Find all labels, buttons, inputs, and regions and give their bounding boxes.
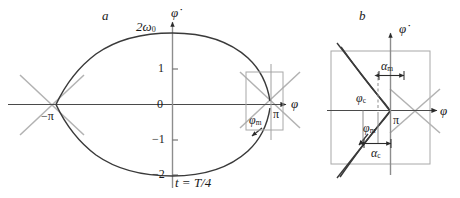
panel-a-label: a xyxy=(102,9,109,22)
panel-a-phi-m-label: φm xyxy=(249,114,261,127)
panel-b-phi-c-value: φ xyxy=(356,91,363,105)
panel-b-phi-m-value: φ xyxy=(363,121,370,135)
panel-b-phi-m-label: φm xyxy=(363,122,375,135)
panel-a-y-ticks xyxy=(173,69,179,175)
panel-a-tick-pi: π xyxy=(273,108,279,120)
panel-b-alpha-m-sub: m xyxy=(387,64,393,73)
panel-a-phi-m-value: φ xyxy=(249,113,256,127)
panel-b-phi-c-label: φc xyxy=(356,92,366,105)
panel-b-graphic xyxy=(327,33,440,178)
panel-a-y-top-sub: 0 xyxy=(152,25,156,34)
panel-a-time-label: t = T/4 xyxy=(175,176,211,189)
panel-a-tick-0: 0 xyxy=(157,98,163,110)
panel-a-tick-neg2: −2 xyxy=(152,168,165,180)
panel-b-x-axis-label: φ xyxy=(440,104,447,117)
panel-a-y-top-label: 2ω0 xyxy=(136,20,156,35)
panel-b-alpha-m-label: αm xyxy=(381,60,393,73)
panel-a-x-axis-label: φ xyxy=(291,97,298,110)
panel-b-phi-c-sub: c xyxy=(363,96,366,105)
panel-b-label: b xyxy=(359,9,366,22)
panel-a-graphic xyxy=(8,22,300,188)
panel-b-tick-pi: π xyxy=(393,114,399,126)
panel-a-y-axis-label: φ̇ xyxy=(171,6,178,19)
panel-b-alpha-c-sub: c xyxy=(377,151,380,160)
panel-a-y-top-value: 2ω xyxy=(136,19,152,34)
panel-b-alpha-c-label: αc xyxy=(371,147,381,160)
panel-a-phi-m-sub: m xyxy=(256,118,262,127)
figure-canvas xyxy=(0,0,460,198)
panel-a-tick-1: 1 xyxy=(158,62,164,74)
panel-a-tick-neg-pi: −π xyxy=(41,110,54,122)
panel-b-y-axis-label: φ̇ xyxy=(399,22,406,35)
figure-phase-portrait: a 2ω0 φ̇ 1 0 −1 −2 −π π φ φm t = T/4 b φ… xyxy=(0,0,460,198)
panel-b-phi-m-sub: m xyxy=(370,126,376,135)
panel-a-tick-neg1: −1 xyxy=(152,133,165,145)
